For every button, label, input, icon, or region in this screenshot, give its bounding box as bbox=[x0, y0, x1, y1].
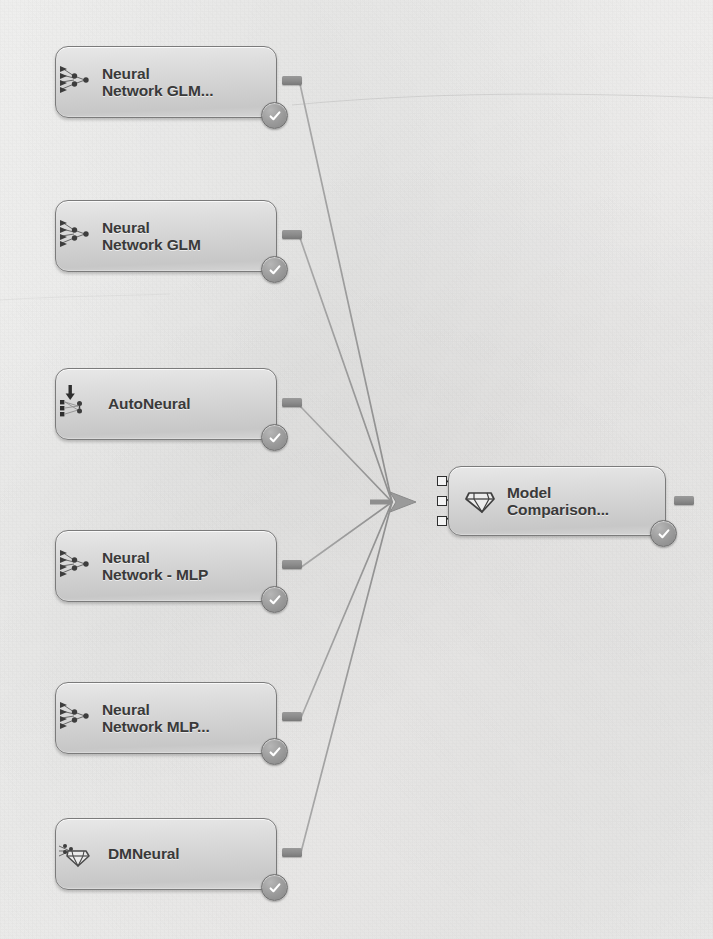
output-tab-dmneural[interactable] bbox=[282, 848, 302, 857]
node-neural-network-mlp-2[interactable]: Neural Network MLP... bbox=[55, 682, 277, 754]
input-port-2[interactable] bbox=[437, 496, 447, 506]
process-flow-canvas[interactable]: Neural Network GLM... bbox=[0, 0, 713, 939]
output-tab-neural-network-glm[interactable] bbox=[282, 230, 302, 239]
status-badge-complete[interactable] bbox=[261, 256, 288, 283]
node-label: Neural Network MLP... bbox=[102, 701, 266, 736]
node-neural-network-glm[interactable]: Neural Network GLM bbox=[55, 200, 277, 272]
neural-network-icon bbox=[58, 214, 102, 258]
input-port-1[interactable] bbox=[437, 476, 447, 486]
edge-neural-network-glm-2-to-model-comparison bbox=[300, 84, 392, 502]
edge-group bbox=[300, 84, 392, 856]
node-label: AutoNeural bbox=[108, 395, 266, 412]
diamond-glyph bbox=[466, 493, 494, 512]
edge-arrowhead bbox=[370, 492, 416, 512]
node-label: DMNeural bbox=[108, 845, 266, 862]
edge-dmneural-to-model-comparison bbox=[300, 502, 392, 856]
neural-network-icon bbox=[58, 60, 102, 104]
status-badge-complete[interactable] bbox=[650, 520, 677, 547]
node-model-comparison[interactable]: Model Comparison... bbox=[448, 466, 666, 536]
node-label: Neural Network GLM bbox=[102, 219, 266, 254]
neural-network-icon bbox=[58, 696, 102, 740]
output-tab-autoneural[interactable] bbox=[282, 398, 302, 407]
node-neural-network-mlp[interactable]: Neural Network - MLP bbox=[55, 530, 277, 602]
edge-autoneural-to-model-comparison bbox=[300, 406, 392, 502]
node-neural-network-glm-2[interactable]: Neural Network GLM... bbox=[55, 46, 277, 118]
node-dmneural[interactable]: DMNeural bbox=[55, 818, 277, 890]
autoneural-icon bbox=[58, 382, 102, 426]
page-bleed-line-2 bbox=[0, 294, 170, 300]
node-label: Neural Network GLM... bbox=[102, 65, 266, 100]
status-badge-complete[interactable] bbox=[261, 874, 288, 901]
output-tab-neural-network-glm-2[interactable] bbox=[282, 76, 302, 85]
diamond-model-icon bbox=[461, 479, 505, 523]
page-bleed-line bbox=[292, 94, 713, 105]
neural-network-icon bbox=[58, 544, 102, 588]
status-badge-complete[interactable] bbox=[261, 102, 288, 129]
status-badge-complete[interactable] bbox=[261, 738, 288, 765]
input-port-3[interactable] bbox=[437, 516, 447, 526]
status-badge-complete[interactable] bbox=[261, 424, 288, 451]
node-label: Model Comparison... bbox=[507, 484, 655, 519]
diamond-glyph bbox=[67, 851, 89, 866]
status-badge-complete[interactable] bbox=[261, 586, 288, 613]
node-autoneural[interactable]: AutoNeural bbox=[55, 368, 277, 440]
output-tab-neural-network-mlp[interactable] bbox=[282, 560, 302, 569]
output-tab-neural-network-mlp-2[interactable] bbox=[282, 712, 302, 721]
edge-neural-network-glm-to-model-comparison bbox=[300, 238, 392, 502]
node-label: Neural Network - MLP bbox=[102, 549, 266, 584]
output-tab-model-comparison[interactable] bbox=[674, 496, 694, 505]
diamond-model-icon bbox=[58, 832, 102, 876]
